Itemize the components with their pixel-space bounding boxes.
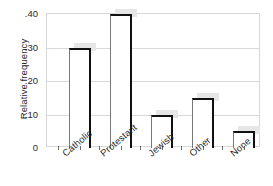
bar-chart: Relative frequency .40 .30 .20 .10 0 [0,0,273,186]
x-axis-tick-labels: Catholic Protestant Jewish Other None [46,150,260,186]
plot-area [46,13,260,147]
y-axis-tick-labels: .40 .30 .20 .10 0 [16,0,38,186]
y-tick-label-020: .20 [16,76,38,85]
y-tick-label-030: .30 [16,42,38,51]
y-tick-label-010: .10 [16,109,38,118]
y-tick-label-040: .40 [16,9,38,18]
y-tick-label-0: 0 [16,143,38,152]
